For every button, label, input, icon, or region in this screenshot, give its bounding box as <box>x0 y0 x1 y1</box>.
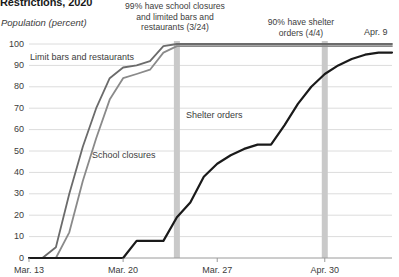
series-line-shelter-orders <box>29 53 392 258</box>
shelter-orders-annotation: 90% have shelter orders (4/4) <box>256 17 346 38</box>
series-label-limit-bars-and-restaurants: Limit bars and restaurants <box>30 52 134 62</box>
series-line-school-closures <box>29 46 392 258</box>
end-label-apr9: Apr. 9 <box>364 27 388 37</box>
highlight-band <box>174 41 180 258</box>
school-closures-bars-annotation: 99% have school closures and limited bar… <box>110 1 240 33</box>
chart-container: Restrictions, 2020 Population (percent) … <box>0 0 399 277</box>
series-label-school-closures: School closures <box>92 150 156 160</box>
series-label-shelter-orders: Shelter orders <box>186 110 243 120</box>
plot-area <box>0 0 399 277</box>
